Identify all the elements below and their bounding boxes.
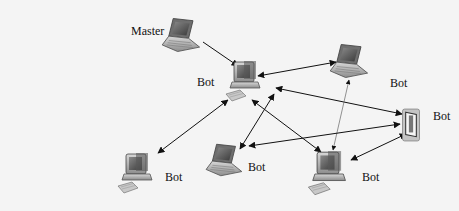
edge-center-topright	[258, 62, 336, 76]
bot-center-desktop-icon	[226, 61, 260, 101]
bot-center-label: Bot	[197, 75, 214, 90]
edge-topright-bottomright	[333, 80, 349, 150]
bot-top-right-laptop-icon	[330, 45, 367, 78]
master-label: Master	[131, 24, 164, 39]
bot-right-label: Bot	[433, 109, 450, 124]
bot-bottom-left-label: Bot	[165, 170, 182, 185]
bot-bottom-right-label: Bot	[362, 170, 379, 185]
edge-bottomright-right	[351, 134, 406, 160]
edges	[158, 42, 406, 160]
bot-bottom-left-desktop-icon	[118, 153, 152, 193]
bot-right-pda-icon	[403, 109, 420, 141]
bot-bottom-right-desktop-icon	[308, 151, 345, 195]
botnet-diagram	[0, 0, 459, 211]
bot-bottom-center-label: Bot	[248, 160, 265, 175]
edge-center-bottomcenter	[240, 94, 274, 149]
edge-bottomcenter-right	[249, 124, 400, 146]
edge-master-to-center	[203, 42, 238, 66]
bot-bottom-center-laptop-icon	[206, 144, 242, 176]
edge-center-right	[276, 88, 402, 114]
bot-top-right-label: Bot	[390, 76, 407, 91]
master-laptop-icon	[162, 19, 199, 52]
